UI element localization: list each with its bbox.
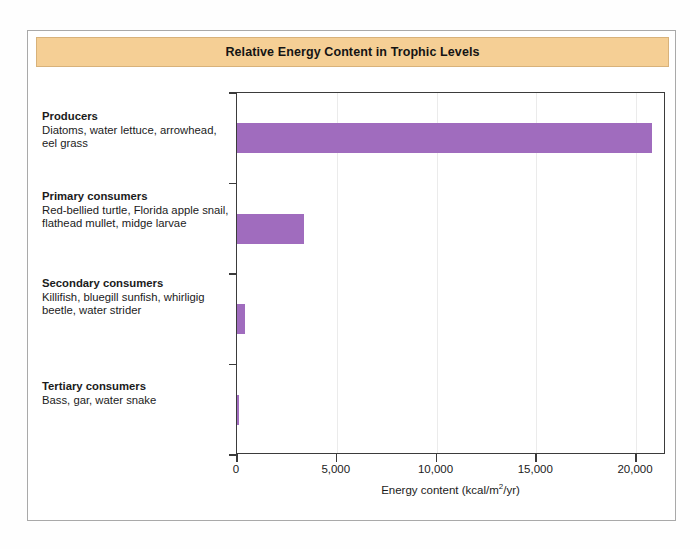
y-axis-tick	[229, 273, 236, 275]
category-label-producers: Producers Diatoms, water lettuce, arrowh…	[42, 110, 232, 151]
category-name: Secondary consumers	[42, 277, 232, 291]
y-axis-tick	[229, 454, 236, 456]
y-axis-tick	[229, 183, 236, 185]
category-name: Primary consumers	[42, 190, 232, 204]
x-axis-tick-label: 5,000	[321, 463, 350, 475]
x-axis-title: Energy content (kcal/m2/yr)	[236, 484, 665, 496]
category-name: Tertiary consumers	[42, 380, 232, 394]
chart-title-band: Relative Energy Content in Trophic Level…	[36, 37, 669, 67]
x-axis-title-suffix: /yr)	[503, 484, 520, 496]
category-species: Bass, gar, water snake	[42, 394, 232, 408]
bar-producers	[237, 123, 652, 153]
x-axis-tick	[635, 454, 637, 462]
bar-secondary-consumers	[237, 304, 245, 334]
category-label-tertiary-consumers: Tertiary consumers Bass, gar, water snak…	[42, 380, 232, 407]
x-axis-title-prefix: Energy content (kcal/m	[381, 484, 499, 496]
category-species: Killifish, bluegill sunfish, whirligig b…	[42, 291, 232, 318]
figure-root: Relative Energy Content in Trophic Level…	[0, 0, 700, 549]
x-axis-tick-label: 10,000	[418, 463, 453, 475]
page-title: Relative Energy Content in Trophic Level…	[225, 45, 479, 59]
category-species: Diatoms, water lettuce, arrowhead, eel g…	[42, 124, 232, 151]
y-axis-tick	[229, 364, 236, 366]
bar-tertiary-consumers	[237, 395, 239, 425]
y-axis-tick	[229, 92, 236, 94]
category-species: Red-bellied turtle, Florida apple snail,…	[42, 204, 232, 231]
x-axis-tick	[336, 454, 338, 462]
x-axis-tick	[436, 454, 438, 462]
bar-primary-consumers	[237, 214, 304, 244]
plot-area	[236, 92, 665, 454]
x-axis-tick-label: 0	[233, 463, 239, 475]
category-label-secondary-consumers: Secondary consumers Killifish, bluegill …	[42, 277, 232, 318]
x-axis-tick	[535, 454, 537, 462]
x-axis-tick	[236, 454, 238, 462]
category-label-primary-consumers: Primary consumers Red-bellied turtle, Fl…	[42, 190, 232, 231]
x-axis-tick-label: 15,000	[518, 463, 553, 475]
x-axis-tick-label: 20,000	[617, 463, 652, 475]
category-name: Producers	[42, 110, 232, 124]
